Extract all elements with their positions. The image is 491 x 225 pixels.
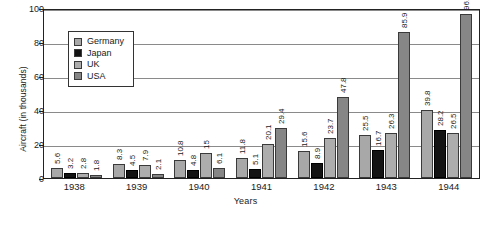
bar-rect bbox=[372, 150, 384, 178]
legend-item-japan[interactable]: Japan bbox=[74, 48, 124, 60]
bar-uk-1940[interactable]: 15 bbox=[200, 10, 212, 178]
x-tick-label: 1941 bbox=[231, 182, 293, 192]
x-tick-label: 1940 bbox=[168, 182, 230, 192]
bar-value-label: 26.5 bbox=[449, 113, 457, 129]
bar-usa-1939[interactable]: 2.1 bbox=[152, 10, 164, 178]
bar-rect bbox=[359, 135, 371, 178]
y-tick-label: 80 bbox=[4, 39, 44, 48]
bar-uk-1943[interactable]: 26.3 bbox=[385, 10, 397, 178]
bar-rect bbox=[421, 110, 433, 178]
bar-rect bbox=[64, 173, 76, 178]
bar-value-label: 4.8 bbox=[190, 155, 198, 166]
y-tick-mark bbox=[39, 111, 43, 112]
x-tick-label: 1938 bbox=[43, 182, 105, 192]
bar-rect bbox=[113, 164, 125, 178]
bar-germany-1944[interactable]: 39.8 bbox=[421, 10, 433, 178]
bar-rect bbox=[460, 14, 472, 178]
bar-usa-1943[interactable]: 85.9 bbox=[398, 10, 410, 178]
bar-rect bbox=[398, 32, 410, 178]
bar-value-label: 1.8 bbox=[93, 160, 101, 171]
y-tick-mark bbox=[39, 145, 43, 146]
bar-rect bbox=[324, 138, 336, 178]
bar-rect bbox=[213, 168, 225, 178]
bar-value-label: 20.1 bbox=[265, 124, 273, 140]
y-tick-label: 40 bbox=[4, 107, 44, 116]
y-tick-label: 0 bbox=[4, 175, 44, 184]
bar-value-label: 10.8 bbox=[177, 140, 185, 156]
bar-value-label: 39.8 bbox=[423, 91, 431, 107]
bar-japan-1943[interactable]: 16.7 bbox=[372, 10, 384, 178]
bar-japan-1944[interactable]: 28.2 bbox=[434, 10, 446, 178]
legend-label: Japan bbox=[87, 49, 112, 58]
bar-uk-1944[interactable]: 26.5 bbox=[447, 10, 459, 178]
bar-value-label: 11.8 bbox=[239, 139, 247, 154]
bar-germany-1938[interactable]: 5.6 bbox=[51, 10, 63, 178]
bar-value-label: 8.3 bbox=[115, 149, 123, 160]
bar-value-label: 15 bbox=[203, 140, 211, 149]
bar-uk-1941[interactable]: 20.1 bbox=[262, 10, 274, 178]
bar-rect bbox=[174, 160, 186, 178]
bar-group-1940: 10.84.8156.1 bbox=[169, 10, 231, 178]
bar-rect bbox=[447, 133, 459, 178]
bar-value-label: 8.9 bbox=[313, 148, 321, 159]
bar-rect bbox=[236, 158, 248, 178]
bar-rect bbox=[77, 173, 89, 178]
bar-value-label: 28.2 bbox=[436, 110, 444, 126]
bar-value-label: 7.9 bbox=[141, 149, 149, 160]
y-tick-label: 60 bbox=[4, 73, 44, 82]
bar-japan-1940[interactable]: 4.8 bbox=[187, 10, 199, 178]
bar-value-label: 6.1 bbox=[216, 153, 224, 164]
y-tick-label: 20 bbox=[4, 141, 44, 150]
bar-group-1943: 25.516.726.385.9 bbox=[354, 10, 416, 178]
bar-usa-1941[interactable]: 29.4 bbox=[275, 10, 287, 178]
bar-rect bbox=[337, 97, 349, 178]
bar-japan-1941[interactable]: 5.1 bbox=[249, 10, 261, 178]
legend-swatch-icon bbox=[74, 61, 82, 69]
bar-rect bbox=[126, 170, 138, 178]
bar-value-label: 29.4 bbox=[278, 108, 286, 124]
legend-swatch-icon bbox=[74, 72, 82, 80]
bar-rect bbox=[434, 130, 446, 178]
x-tick-label: 1943 bbox=[355, 182, 417, 192]
bar-rect bbox=[152, 174, 164, 178]
bar-value-label: 26.3 bbox=[388, 114, 396, 130]
bar-chart: Aircraft (in thousands) 5.63.22.81.88.34… bbox=[0, 0, 491, 225]
bar-uk-1942[interactable]: 23.7 bbox=[324, 10, 336, 178]
bar-group-1942: 15.68.923.747.8 bbox=[292, 10, 354, 178]
x-tick-label: 1944 bbox=[418, 182, 480, 192]
bar-value-label: 85.9 bbox=[401, 12, 409, 28]
x-tick-label: 1942 bbox=[293, 182, 355, 192]
bar-germany-1943[interactable]: 25.5 bbox=[359, 10, 371, 178]
bar-germany-1941[interactable]: 11.8 bbox=[236, 10, 248, 178]
bar-value-label: 47.8 bbox=[339, 77, 347, 93]
legend-item-uk[interactable]: UK bbox=[74, 59, 124, 71]
bar-value-label: 15.6 bbox=[300, 132, 308, 148]
bar-usa-1944[interactable]: 96.3 bbox=[460, 10, 472, 178]
legend-label: UK bbox=[87, 60, 100, 69]
bar-value-label: 23.7 bbox=[326, 118, 334, 134]
bar-germany-1942[interactable]: 15.6 bbox=[298, 10, 310, 178]
legend-label: USA bbox=[87, 72, 106, 81]
legend-item-germany[interactable]: Germany bbox=[74, 36, 124, 48]
bar-group-1941: 11.85.120.129.4 bbox=[231, 10, 293, 178]
bar-rect bbox=[200, 153, 212, 179]
bar-rect bbox=[51, 168, 63, 178]
bar-rect bbox=[262, 144, 274, 178]
bar-germany-1940[interactable]: 10.8 bbox=[174, 10, 186, 178]
legend-label: Germany bbox=[87, 37, 124, 46]
bar-rect bbox=[275, 128, 287, 178]
bar-rect bbox=[311, 163, 323, 178]
bar-value-label: 2.1 bbox=[154, 159, 162, 170]
plot-area: 5.63.22.81.88.34.57.92.110.84.8156.111.8… bbox=[43, 9, 480, 179]
legend-item-usa[interactable]: USA bbox=[74, 71, 124, 83]
bar-usa-1942[interactable]: 47.8 bbox=[337, 10, 349, 178]
bar-rect bbox=[249, 169, 261, 178]
x-tick-label: 1939 bbox=[106, 182, 168, 192]
bar-rect bbox=[385, 133, 397, 178]
bar-japan-1942[interactable]: 8.9 bbox=[311, 10, 323, 178]
bar-value-label: 3.2 bbox=[67, 157, 75, 168]
y-tick-mark bbox=[39, 77, 43, 78]
bar-usa-1940[interactable]: 6.1 bbox=[213, 10, 225, 178]
bar-uk-1939[interactable]: 7.9 bbox=[139, 10, 151, 178]
y-tick-mark bbox=[39, 179, 43, 180]
